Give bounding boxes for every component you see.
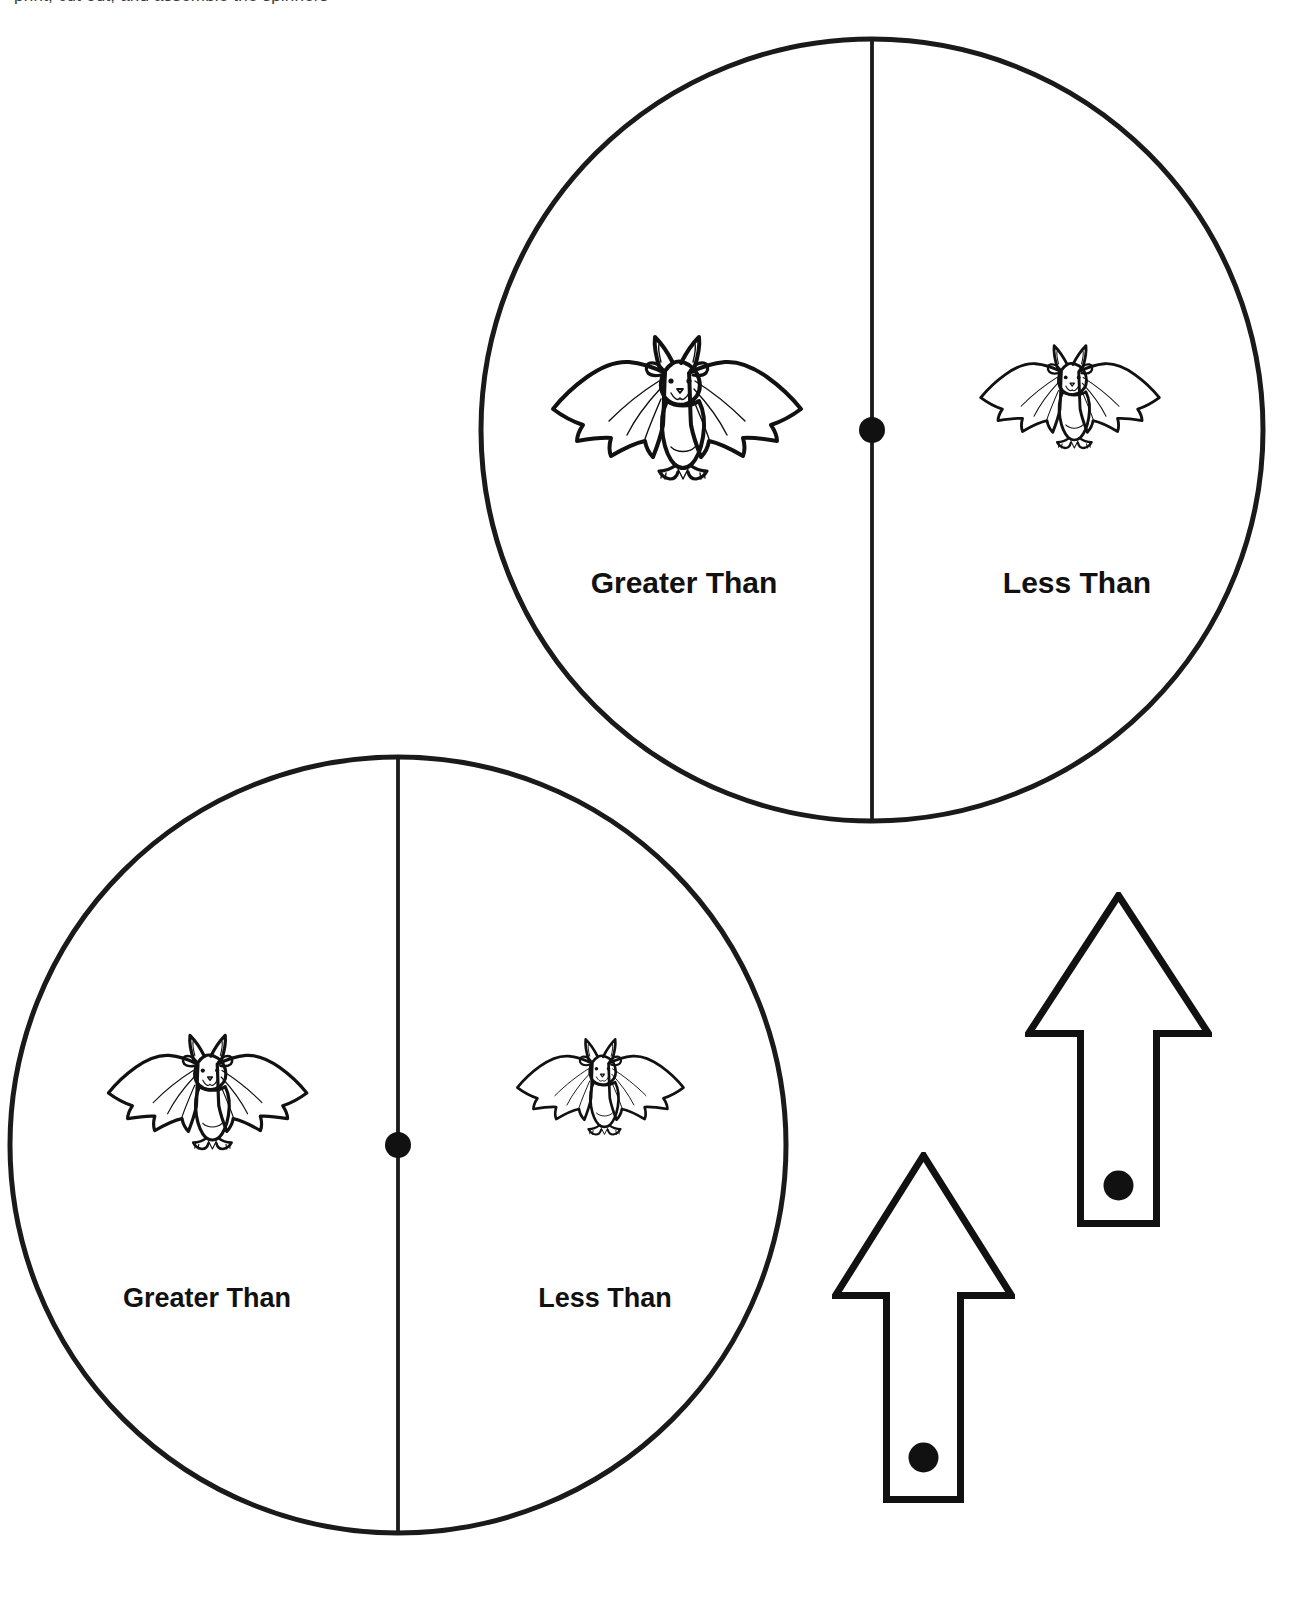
bat-icon	[512, 1034, 689, 1136]
spinner-label-greater-than: Greater Than	[591, 566, 778, 599]
pointer-pivot-dot-icon	[909, 1443, 939, 1473]
spinner-section-less-than-art	[512, 1034, 689, 1136]
bat-icon	[102, 1029, 313, 1151]
worksheet-page: print, cut out, and assemble the spinner…	[0, 0, 1306, 1616]
bat-icon	[545, 329, 809, 481]
spinner-label-less-than: Less Than	[538, 1283, 672, 1313]
spinner-label-greater-than: Greater Than	[123, 1283, 291, 1313]
bat-icon	[975, 340, 1165, 449]
clipped-instruction-text: print, cut out, and assemble the spinner…	[14, 0, 534, 8]
arrow-spinner-pointer[interactable]	[832, 1152, 1015, 1503]
spinner-section-greater-than-art	[102, 1029, 313, 1151]
arrow-spinner-pointer[interactable]	[1025, 892, 1212, 1227]
spinner-section-greater-than-art	[545, 329, 809, 481]
pointer-pivot-dot-icon	[1104, 1171, 1134, 1201]
spinner-section-less-than-art	[975, 340, 1165, 449]
spinner-label-less-than: Less Than	[1003, 566, 1151, 599]
spinner-wheel[interactable]: Greater ThanLess Than	[3, 750, 793, 1540]
spinner-wheel[interactable]: Greater ThanLess Than	[474, 32, 1270, 828]
